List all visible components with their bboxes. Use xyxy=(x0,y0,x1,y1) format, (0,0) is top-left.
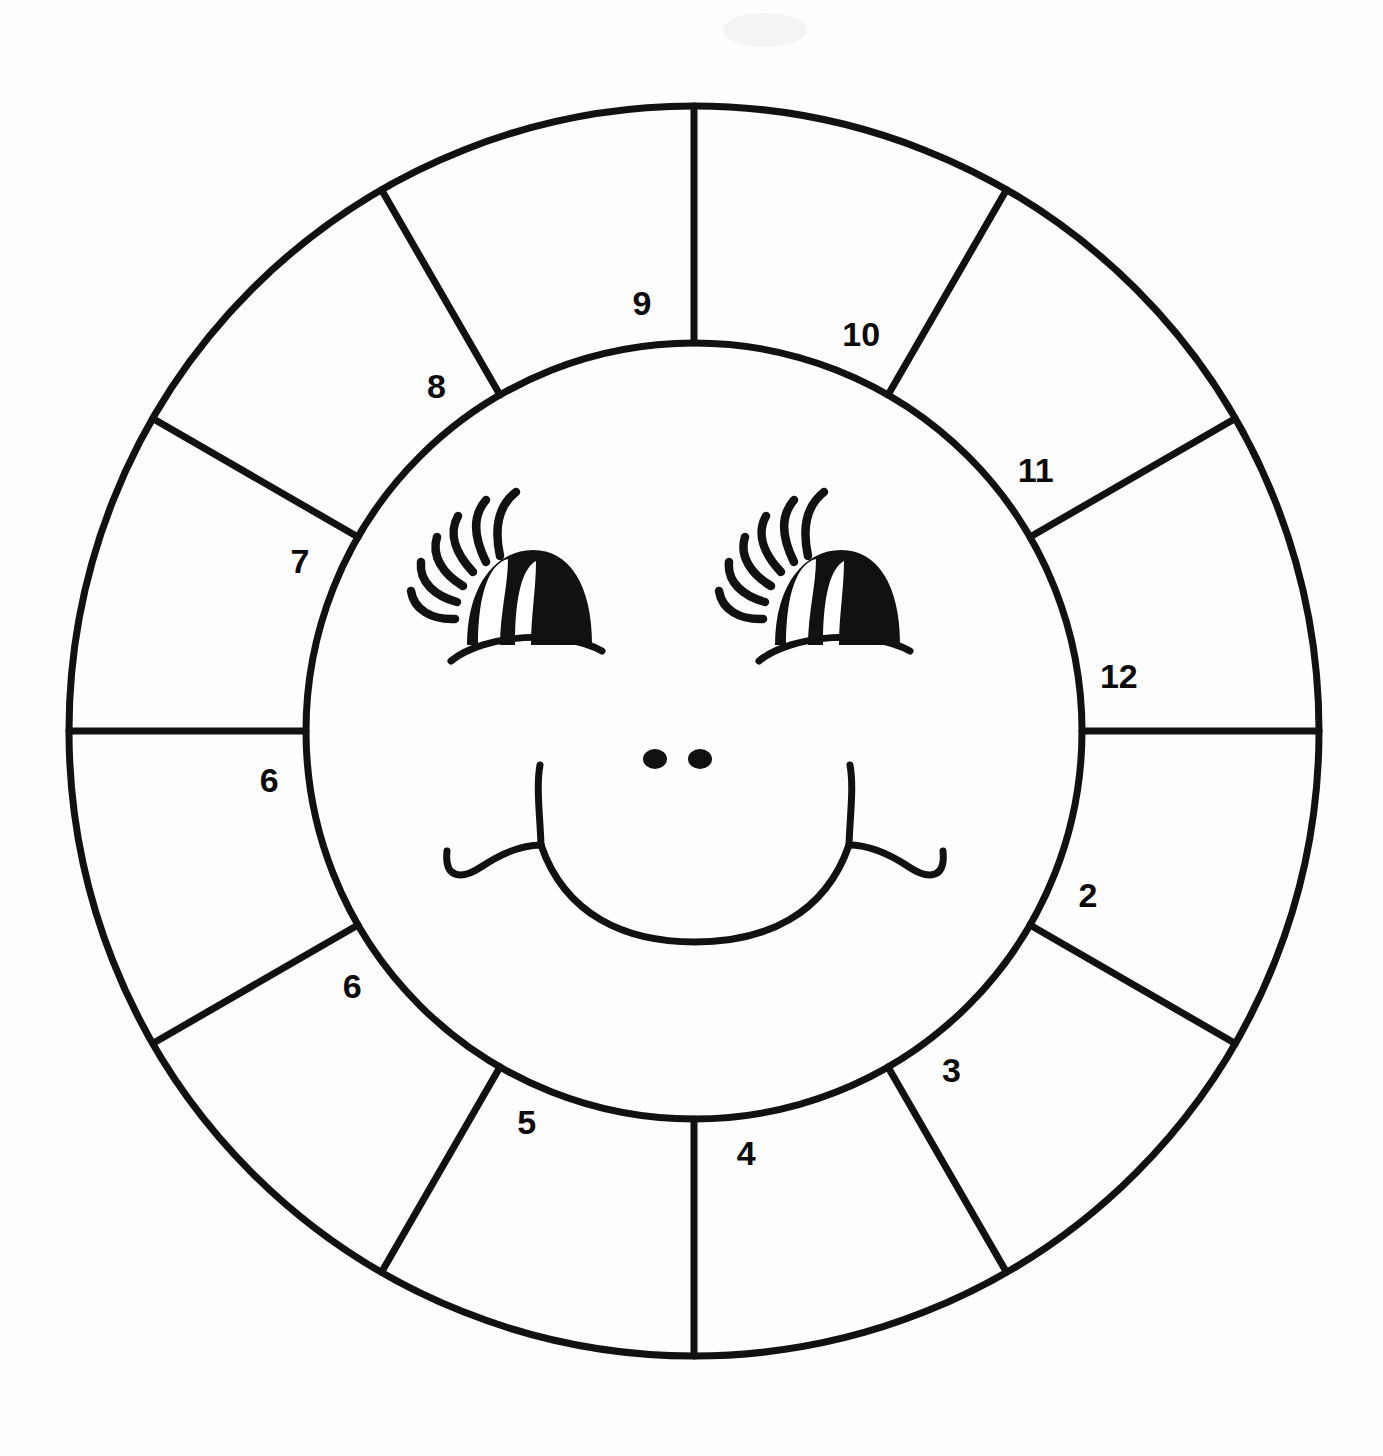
right-cheek-dimple xyxy=(849,845,943,875)
nose xyxy=(643,749,712,769)
segment-number-7: 5 xyxy=(517,1103,536,1141)
nostril-right-dot xyxy=(688,749,712,769)
segment-number-1: 10 xyxy=(842,315,880,353)
segment-number-4: 2 xyxy=(1079,876,1098,914)
segment-number-5: 3 xyxy=(942,1051,961,1089)
scan-smudge xyxy=(723,13,807,47)
segment-number-6: 4 xyxy=(737,1134,756,1172)
worksheet-canvas: 910111223456678 xyxy=(0,0,1383,1456)
segment-number-10: 7 xyxy=(291,542,310,580)
segment-number-11: 8 xyxy=(427,367,446,405)
face-group xyxy=(411,492,943,942)
left-eye xyxy=(411,492,602,661)
inner-circle xyxy=(306,343,1082,1119)
right-eye xyxy=(719,492,910,661)
mouth-smile xyxy=(541,845,849,942)
segment-number-8: 6 xyxy=(343,967,362,1005)
left-cheek-dimple xyxy=(447,845,541,875)
nostril-left-dot xyxy=(643,749,667,769)
sector-group xyxy=(69,106,1319,1356)
segment-number-2: 11 xyxy=(1018,451,1054,489)
left-cheek-upper xyxy=(538,765,541,845)
segment-number-3: 12 xyxy=(1100,657,1138,695)
right-cheek-upper xyxy=(849,765,852,845)
segment-number-0: 9 xyxy=(632,284,651,322)
clock-face-wheel: 910111223456678 xyxy=(0,0,1383,1456)
segment-number-9: 6 xyxy=(260,761,279,799)
